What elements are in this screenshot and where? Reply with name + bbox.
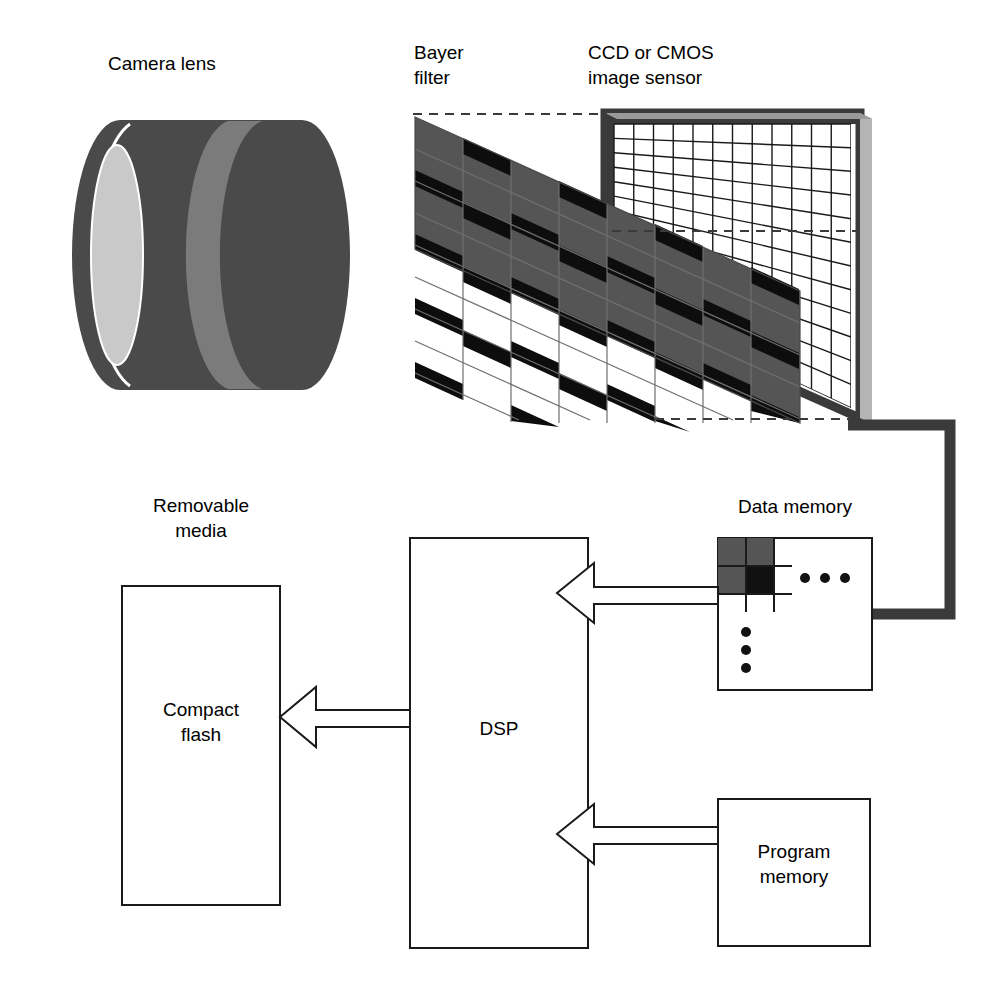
dsp-label: DSP	[479, 718, 518, 739]
program-memory-label-line1: Program	[758, 841, 831, 862]
sensor-label-line1: CCD or CMOS	[588, 42, 714, 63]
removable-media-label-line1: Removable	[153, 495, 249, 516]
memory-cell-1-1	[746, 566, 774, 594]
sensor-label-line2: image sensor	[588, 67, 703, 88]
lens-glass-face	[91, 145, 143, 365]
bayer-filter-label-line2: filter	[414, 67, 451, 88]
removable-media-label-line2: media	[175, 520, 227, 541]
bayer-filter-label-line1: Bayer	[414, 42, 464, 63]
memory-vdot-3	[741, 663, 751, 673]
program-memory-block[interactable]: Program memory	[718, 799, 870, 946]
memory-cell-0-0	[718, 538, 746, 566]
memory-hdot-2	[820, 573, 830, 583]
camera-lens-label: Camera lens	[108, 53, 216, 74]
diagram-canvas: Camera lens Bayer filter CCD or CMOS ima…	[0, 0, 986, 982]
program-memory-label-line2: memory	[760, 866, 829, 887]
camera-lens-graphic	[72, 120, 350, 390]
compact-flash-block[interactable]: Compact flash	[122, 586, 280, 905]
memory-hdot-3	[840, 573, 850, 583]
memory-hdot-1	[800, 573, 810, 583]
memory-vdot-1	[741, 627, 751, 637]
compact-flash-label-line1: Compact	[163, 699, 240, 720]
data-memory-block[interactable]	[718, 538, 872, 690]
sensor-top-bevel	[605, 113, 872, 119]
camera-pipeline-diagram: Camera lens Bayer filter CCD or CMOS ima…	[0, 0, 986, 982]
compact-flash-box[interactable]	[122, 586, 280, 905]
memory-cell-0-1	[746, 538, 774, 566]
sensor-side-thickness-top	[860, 113, 872, 424]
memory-cell-1-0	[718, 566, 746, 594]
data-memory-label: Data memory	[738, 496, 853, 517]
memory-vdot-2	[741, 645, 751, 655]
dsp-block[interactable]: DSP	[410, 538, 588, 948]
compact-flash-label-line2: flash	[181, 724, 221, 745]
dsp-box[interactable]	[410, 538, 588, 948]
